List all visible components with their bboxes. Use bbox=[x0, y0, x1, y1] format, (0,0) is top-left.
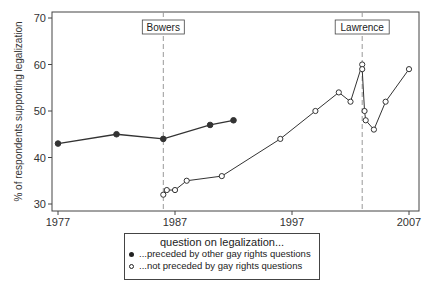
y-tick-label: 70 bbox=[34, 12, 46, 24]
x-tick-label: 1977 bbox=[46, 216, 70, 228]
y-tick-label: 50 bbox=[34, 105, 46, 117]
data-point-open bbox=[313, 108, 318, 113]
data-point-open bbox=[336, 90, 341, 95]
data-point-open bbox=[371, 127, 376, 132]
annotation-label: Lawrence bbox=[341, 22, 385, 33]
data-point-open bbox=[184, 178, 189, 183]
y-tick-label: 30 bbox=[34, 198, 46, 210]
data-point-filled bbox=[231, 118, 237, 124]
x-tick-label: 2007 bbox=[397, 216, 421, 228]
legend: question on legalization... ...preceded … bbox=[124, 233, 320, 280]
legend-item-preceded: ...preceded by other gay rights question… bbox=[129, 248, 319, 260]
x-tick-label: 1997 bbox=[280, 216, 304, 228]
data-point-open bbox=[363, 118, 368, 123]
data-point-filled bbox=[207, 122, 213, 128]
data-point-filled bbox=[55, 141, 61, 147]
legend-label: ...not preceded by gay rights questions bbox=[139, 260, 302, 271]
data-point-open bbox=[406, 67, 411, 72]
data-point-open bbox=[360, 67, 365, 72]
data-point-open bbox=[164, 187, 169, 192]
data-point-filled bbox=[161, 136, 167, 142]
data-point-open bbox=[383, 99, 388, 104]
legend-item-not-preceded: ...not preceded by gay rights questions bbox=[129, 260, 319, 272]
data-point-open bbox=[161, 192, 166, 197]
y-tick-label: 40 bbox=[34, 152, 46, 164]
legend-label: ...preceded by other gay rights question… bbox=[139, 248, 311, 259]
y-axis-label: % of respondents supporting legalization bbox=[13, 21, 24, 201]
data-point-open bbox=[172, 187, 177, 192]
annotation-label: Bowers bbox=[147, 22, 180, 33]
y-tick-label: 60 bbox=[34, 59, 46, 71]
data-point-open bbox=[219, 174, 224, 179]
data-point-open bbox=[362, 108, 367, 113]
legend-title: question on legalization... bbox=[125, 236, 319, 248]
filled-circle-icon bbox=[129, 252, 134, 257]
data-point-filled bbox=[114, 131, 120, 137]
data-point-open bbox=[278, 136, 283, 141]
data-point-open bbox=[348, 99, 353, 104]
x-tick-label: 1987 bbox=[163, 216, 187, 228]
open-circle-icon bbox=[129, 264, 134, 269]
